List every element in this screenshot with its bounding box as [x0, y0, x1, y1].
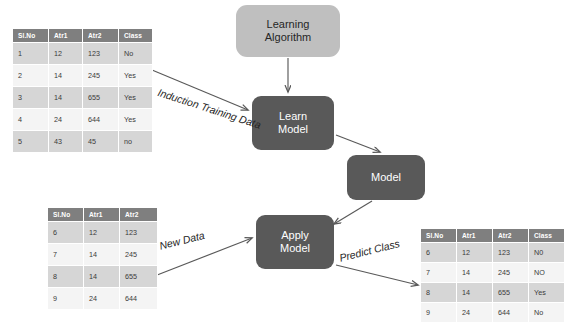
table-row: 7 14 245 NO: [421, 263, 564, 282]
node-learning-algorithm-line1: Learning: [265, 18, 311, 31]
node-apply-model-line1: Apply: [280, 229, 310, 242]
node-learn-model: Learn Model: [252, 96, 334, 150]
column-header-atr1: Atr1: [49, 29, 82, 42]
cell-slno: 6: [421, 243, 456, 262]
node-model: Model: [347, 155, 425, 200]
cell-slno: 7: [421, 263, 456, 282]
cell-atr2: 123: [120, 222, 157, 243]
cell-atr2: 123: [493, 243, 528, 262]
column-header-class: Class: [529, 229, 564, 242]
column-header-atr2: Atr2: [493, 229, 528, 242]
table-row: 3 14 655 Yes: [13, 87, 152, 108]
node-learn-model-line2: Model: [278, 123, 308, 136]
cell-class: Yes: [119, 87, 152, 108]
cell-atr2: 245: [83, 65, 118, 86]
edge-label-predict-class: Predict Class: [338, 237, 401, 265]
cell-atr1: 14: [457, 283, 492, 302]
column-header-slno: Sl.No: [48, 208, 83, 221]
column-header-atr2: Atr2: [120, 208, 157, 221]
cell-atr2: 644: [120, 288, 157, 309]
cell-slno: 8: [48, 266, 83, 287]
column-header-slno: Sl.No: [13, 29, 48, 42]
edge-label-new-data: New Data: [158, 229, 206, 253]
cell-slno: 8: [421, 283, 456, 302]
node-model-label: Model: [371, 171, 401, 184]
arrow-model-to-apply-model: [334, 201, 372, 224]
predicted-class-table: Sl.No Atr1 Atr2 Class 6 12 123 N0 7 14 2…: [420, 228, 565, 323]
cell-slno: 7: [48, 244, 83, 265]
cell-class: No: [529, 303, 564, 322]
cell-class: Yes: [119, 109, 152, 130]
cell-atr2: 644: [493, 303, 528, 322]
cell-class: Yes: [119, 65, 152, 86]
training-data-table: Sl.No Atr1 Atr2 Class 1 12 123 No 2 14 2…: [12, 28, 153, 153]
table-row: 8 14 655 Yes: [421, 283, 564, 302]
table-header-row: Sl.No Atr1 Atr2 Class: [421, 229, 564, 242]
cell-atr2: 655: [120, 266, 157, 287]
cell-atr2: 655: [83, 87, 118, 108]
table-row: 1 12 123 No: [13, 43, 152, 64]
table-header-row: Sl.No Atr1 Atr2 Class: [13, 29, 152, 42]
table-row: 6 12 123 N0: [421, 243, 564, 262]
node-learning-algorithm: Learning Algorithm: [236, 5, 340, 57]
cell-class: N0: [529, 243, 564, 262]
new-data-table: Sl.No Atr1 Atr2 6 12 123 7 14 245 8 14 6…: [47, 207, 158, 310]
cell-atr1: 14: [49, 87, 82, 108]
table-row: 4 24 644 Yes: [13, 109, 152, 130]
cell-atr1: 24: [84, 288, 119, 309]
column-header-atr1: Atr1: [84, 208, 119, 221]
cell-atr2: 644: [83, 109, 118, 130]
table-row: 6 12 123: [48, 222, 157, 243]
cell-atr1: 14: [84, 266, 119, 287]
table-row: 7 14 245: [48, 244, 157, 265]
cell-atr1: 14: [49, 65, 82, 86]
cell-atr2: 245: [120, 244, 157, 265]
node-apply-model: Apply Model: [256, 215, 334, 269]
cell-atr1: 43: [49, 131, 82, 152]
cell-class: No: [119, 43, 152, 64]
cell-atr2: 655: [493, 283, 528, 302]
cell-atr2: 123: [83, 43, 118, 64]
table-header-row: Sl.No Atr1 Atr2: [48, 208, 157, 221]
cell-atr1: 14: [84, 244, 119, 265]
cell-class: no: [119, 131, 152, 152]
cell-atr1: 12: [84, 222, 119, 243]
cell-slno: 1: [13, 43, 48, 64]
cell-atr1: 14: [457, 263, 492, 282]
node-learning-algorithm-line2: Algorithm: [265, 31, 311, 44]
cell-slno: 9: [421, 303, 456, 322]
cell-atr2: 45: [83, 131, 118, 152]
cell-atr1: 12: [49, 43, 82, 64]
column-header-atr1: Atr1: [457, 229, 492, 242]
cell-slno: 5: [13, 131, 48, 152]
table-row: 9 24 644 No: [421, 303, 564, 322]
arrow-apply-model-to-predicted: [336, 265, 418, 285]
cell-atr1: 24: [457, 303, 492, 322]
cell-slno: 2: [13, 65, 48, 86]
column-header-atr2: Atr2: [83, 29, 118, 42]
column-header-slno: Sl.No: [421, 229, 456, 242]
cell-class: NO: [529, 263, 564, 282]
edge-label-induction-training-data: Induction Training Data: [156, 86, 263, 132]
cell-slno: 4: [13, 109, 48, 130]
column-header-class: Class: [119, 29, 152, 42]
node-apply-model-line2: Model: [280, 242, 310, 255]
node-learn-model-line1: Learn: [278, 110, 308, 123]
edge-label-induction-line1: Induction: [156, 86, 200, 111]
cell-class: Yes: [529, 283, 564, 302]
cell-atr2: 245: [493, 263, 528, 282]
cell-atr1: 12: [457, 243, 492, 262]
table-row: 8 14 655: [48, 266, 157, 287]
cell-slno: 3: [13, 87, 48, 108]
arrow-learn-model-to-model: [336, 135, 380, 152]
table-row: 5 43 45 no: [13, 131, 152, 152]
cell-slno: 6: [48, 222, 83, 243]
cell-atr1: 24: [49, 109, 82, 130]
cell-slno: 9: [48, 288, 83, 309]
table-row: 2 14 245 Yes: [13, 65, 152, 86]
diagram-canvas: Sl.No Atr1 Atr2 Class 1 12 123 No 2 14 2…: [0, 0, 574, 329]
table-row: 9 24 644: [48, 288, 157, 309]
